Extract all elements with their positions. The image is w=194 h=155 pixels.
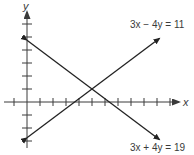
line-3x-plus-4y-eq-19 (27, 40, 160, 139)
equation-label-1: 3x − 4y = 11 (130, 19, 185, 30)
y-axis-label: y (22, 0, 30, 12)
coordinate-plane: x y 3x − 4y = 11 3x + 4y = 19 (0, 0, 194, 155)
line-3x-minus-4y-eq-11 (27, 38, 160, 137)
equation-label-2: 3x + 4y = 19 (130, 142, 185, 153)
x-axis-label: x (182, 96, 189, 108)
